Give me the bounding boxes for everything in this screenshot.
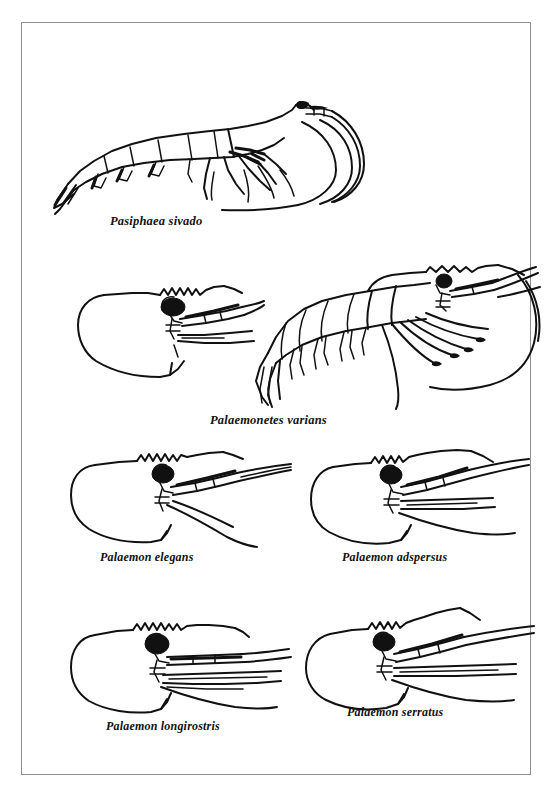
palaemon-serratus-drawing	[302, 608, 537, 713]
figure-palaemon-serratus	[302, 608, 537, 713]
figure-palaemon-longirostris	[67, 617, 292, 717]
caption-palaemon-longirostris: Palaemon longirostris	[106, 719, 220, 734]
caption-palaemon-elegans: Palaemon elegans	[100, 550, 194, 565]
palaemonetes-varians-carapace-drawing	[74, 273, 264, 393]
plate-border-frame: Pasiphaea sivado	[21, 22, 531, 775]
pasiphaea-sivado-drawing	[52, 78, 392, 218]
figure-pasiphaea-sivado	[52, 78, 392, 218]
figure-palaemonetes-varians-whole	[250, 263, 540, 413]
figure-palaemon-adspersus	[307, 447, 532, 547]
palaemon-elegans-drawing	[67, 447, 292, 547]
palaemon-longirostris-drawing	[67, 617, 292, 717]
palaemonetes-varians-whole-drawing	[250, 263, 540, 413]
caption-palaemon-adspersus: Palaemon adspersus	[342, 550, 447, 565]
palaemon-adspersus-drawing	[307, 447, 532, 547]
caption-palaemon-serratus: Palaemon serratus	[347, 705, 443, 720]
figure-palaemonetes-varians-carapace	[74, 273, 264, 393]
caption-pasiphaea-sivado: Pasiphaea sivado	[110, 214, 202, 229]
figure-palaemon-elegans	[67, 447, 292, 547]
illustration-plate: Pasiphaea sivado	[0, 0, 555, 805]
caption-palaemonetes-varians: Palaemonetes varians	[210, 413, 327, 428]
